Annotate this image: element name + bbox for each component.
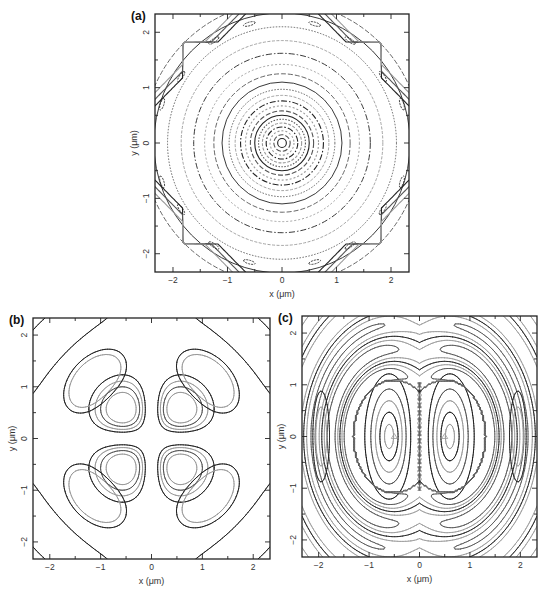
contour-line bbox=[155, 14, 409, 272]
y-tick-label: 2 bbox=[141, 30, 151, 35]
contour-blob bbox=[243, 21, 256, 28]
contour-ring bbox=[250, 111, 313, 175]
y-tick-label: −1 bbox=[141, 193, 151, 203]
triangle-marker-icon bbox=[391, 434, 397, 439]
contour-blob bbox=[308, 21, 321, 28]
contour-ring bbox=[168, 27, 397, 260]
plot-frame bbox=[33, 318, 270, 559]
x-tick-label: 1 bbox=[200, 562, 205, 572]
panel-label: (c) bbox=[278, 311, 293, 325]
x-tick-label: −1 bbox=[223, 275, 233, 285]
x-tick-label: −1 bbox=[96, 562, 106, 572]
x-tick-label: 2 bbox=[251, 562, 256, 572]
x-axis-title: x (μm) bbox=[139, 576, 165, 586]
x-tick-label: −2 bbox=[314, 560, 324, 570]
contour-ring bbox=[274, 135, 290, 152]
y-tick-label: 0 bbox=[141, 140, 151, 145]
y-tick-label: 2 bbox=[288, 330, 298, 335]
panel-a-contour-plot: −2−1012−2−1012x (μm)y (μm)(a) bbox=[129, 2, 421, 299]
contour-ring bbox=[205, 64, 360, 221]
contour-ring bbox=[241, 101, 324, 185]
y-tick-label: 2 bbox=[19, 332, 29, 337]
contour-blob bbox=[243, 259, 256, 266]
y-axis-title: y (μm) bbox=[129, 130, 139, 156]
axis-ticks bbox=[33, 318, 270, 559]
x-tick-label: 0 bbox=[280, 275, 285, 285]
x-tick-label: 0 bbox=[417, 560, 422, 570]
contour-ring bbox=[278, 139, 287, 148]
x-tick-label: −2 bbox=[168, 275, 178, 285]
y-axis-title: y (μm) bbox=[7, 426, 17, 452]
contour-line bbox=[95, 381, 208, 496]
y-tick-label: 1 bbox=[19, 384, 29, 389]
panel-c-contour-plot: −2−1012−2−1012x (μm)y (μm)(c) bbox=[276, 311, 537, 584]
y-axis-title: y (μm) bbox=[276, 424, 286, 450]
x-axis-title: x (μm) bbox=[269, 289, 295, 299]
contour-line bbox=[33, 318, 270, 559]
contour-lines bbox=[302, 316, 537, 557]
contour-lines bbox=[143, 2, 421, 284]
contour-ring bbox=[154, 13, 410, 273]
y-tick-label: 1 bbox=[141, 85, 151, 90]
contour-line bbox=[101, 387, 203, 490]
y-tick-label: 0 bbox=[288, 434, 298, 439]
contour-ring bbox=[214, 74, 350, 212]
x-tick-label: −2 bbox=[45, 562, 55, 572]
contour-line bbox=[64, 349, 240, 528]
x-tick-label: 1 bbox=[334, 275, 339, 285]
x-tick-label: 1 bbox=[468, 560, 473, 570]
axis-ticks bbox=[155, 14, 409, 272]
contour-ring bbox=[245, 106, 318, 180]
contour-line bbox=[155, 14, 409, 272]
contour-ring bbox=[181, 41, 383, 246]
contour-ring bbox=[266, 127, 298, 159]
panel-label: (a) bbox=[131, 9, 146, 23]
contour-ring bbox=[143, 2, 421, 284]
contour-line bbox=[69, 355, 234, 523]
x-tick-label: −1 bbox=[364, 560, 374, 570]
y-tick-label: −2 bbox=[141, 249, 151, 259]
contour-ring bbox=[262, 123, 301, 163]
y-tick-label: 1 bbox=[288, 382, 298, 387]
contour-line bbox=[155, 14, 409, 272]
x-axis-title: x (μm) bbox=[407, 574, 433, 584]
contour-ring bbox=[235, 95, 329, 190]
contour-blob bbox=[308, 259, 321, 266]
x-tick-label: 2 bbox=[518, 560, 523, 570]
contour-ring bbox=[194, 53, 371, 232]
figure-canvas: −2−1012−2−1012x (μm)y (μm)(a) −2−1012−2−… bbox=[0, 0, 550, 589]
contour-lines bbox=[33, 318, 270, 559]
triangle-marker-icon bbox=[442, 434, 448, 439]
x-tick-label: 0 bbox=[149, 562, 154, 572]
plot-frame bbox=[155, 14, 409, 272]
y-tick-label: −2 bbox=[288, 535, 298, 545]
y-tick-label: −2 bbox=[19, 537, 29, 547]
x-tick-label: 2 bbox=[389, 275, 394, 285]
y-tick-label: −1 bbox=[19, 485, 29, 495]
panel-b-contour-plot: −2−1012−2−1012x (μm)y (μm)(b) bbox=[7, 313, 270, 586]
y-tick-label: −1 bbox=[288, 483, 298, 493]
panel-label: (b) bbox=[9, 313, 24, 327]
y-tick-label: 0 bbox=[19, 436, 29, 441]
contour-ring bbox=[259, 119, 306, 167]
contour-line bbox=[106, 392, 197, 484]
